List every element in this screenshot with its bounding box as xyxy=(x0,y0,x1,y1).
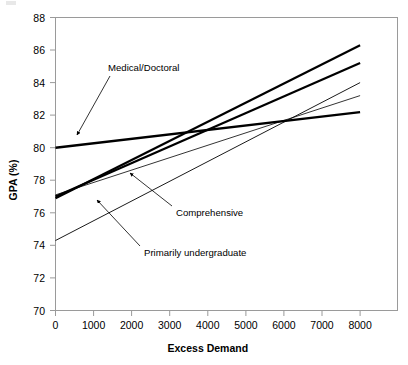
gpa-excess-demand-line-chart: 88 86 84 82 80 78 76 74 72 70 0 1000 xyxy=(0,0,408,365)
plot-frame xyxy=(56,18,398,311)
y-tick-labels: 88 86 84 82 80 78 76 74 72 70 xyxy=(33,12,45,317)
y-tick-label: 86 xyxy=(33,44,45,56)
leader-line-comprehensive xyxy=(130,173,172,206)
y-tick-label: 72 xyxy=(33,272,45,284)
x-tick-label: 0 xyxy=(53,319,59,331)
series-label-medical-doctoral: Medical/Doctoral xyxy=(108,62,179,73)
x-axis-title: Excess Demand xyxy=(168,342,249,354)
series-label-comprehensive: Comprehensive xyxy=(176,207,243,218)
x-tick-label: 8000 xyxy=(348,319,372,331)
x-tick-marks xyxy=(56,311,361,317)
x-tick-label: 2000 xyxy=(120,319,144,331)
series-line-thin-mid-slope xyxy=(56,96,361,195)
y-tick-marks xyxy=(50,18,56,311)
leader-line-primarily-undergraduate xyxy=(97,200,140,246)
series-line-steepest-comprehensive xyxy=(56,45,361,198)
leader-line-medical-doctoral xyxy=(77,76,110,135)
x-tick-label: 3000 xyxy=(158,319,182,331)
chart-root: 88 86 84 82 80 78 76 74 72 70 0 1000 xyxy=(0,0,408,365)
x-tick-label: 1000 xyxy=(82,319,106,331)
y-tick-label: 84 xyxy=(33,77,45,89)
y-tick-label: 74 xyxy=(33,239,45,251)
y-tick-label: 78 xyxy=(33,174,45,186)
y-tick-label: 88 xyxy=(33,12,45,24)
x-tick-label: 5000 xyxy=(234,319,258,331)
x-tick-label: 4000 xyxy=(196,319,220,331)
y-axis-title: GPA (%) xyxy=(7,160,19,201)
x-tick-label: 6000 xyxy=(272,319,296,331)
y-tick-label: 70 xyxy=(33,305,45,317)
x-tick-label: 7000 xyxy=(310,319,334,331)
series-line-medical-doctoral xyxy=(56,112,361,148)
y-tick-label: 82 xyxy=(33,109,45,121)
y-tick-label: 80 xyxy=(33,142,45,154)
series-label-primarily-undergraduate: Primarily undergraduate xyxy=(144,247,246,258)
x-tick-labels: 0 1000 2000 3000 4000 5000 6000 7000 800… xyxy=(53,319,372,331)
scan-artifact xyxy=(6,1,16,5)
y-tick-label: 76 xyxy=(33,207,45,219)
annotation-leader-lines xyxy=(77,76,172,246)
